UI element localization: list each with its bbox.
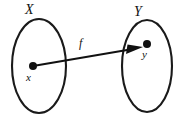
function-arrow-shaft: [33, 50, 130, 67]
diagram-canvas: [0, 0, 177, 124]
element-x-label: x: [26, 72, 31, 83]
set-y-label: Y: [134, 5, 142, 19]
set-y-oval: [122, 20, 172, 112]
set-x-oval: [12, 19, 66, 113]
element-y-dot: [143, 40, 151, 48]
function-f-label: f: [79, 37, 82, 49]
function-mapping-diagram: X Y x y f: [0, 0, 177, 124]
set-x-label: X: [25, 3, 34, 17]
element-x-dot: [29, 62, 37, 70]
element-y-label: y: [142, 49, 147, 60]
function-arrow-head: [126, 45, 143, 55]
